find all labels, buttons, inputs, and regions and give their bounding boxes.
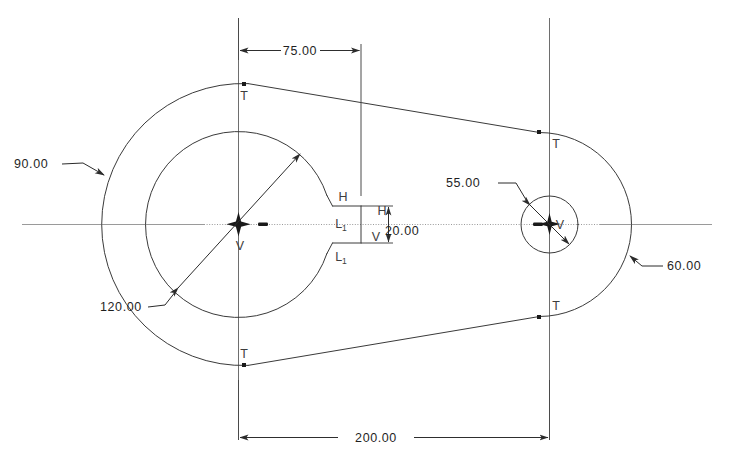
constraint-v-right-label[interactable]: V xyxy=(556,218,565,232)
dim-20-text: 20.00 xyxy=(385,224,419,238)
left-horizontal-glyph xyxy=(258,223,268,227)
drawing-canvas[interactable]: 75.00 200.00 20.00 90.00 120.00 55.00 60… xyxy=(0,0,735,473)
constraint-h-upper-label[interactable]: H xyxy=(338,190,347,204)
dim-60-leader xyxy=(630,256,663,266)
dim-90-leader xyxy=(62,163,104,175)
svg-text:L1: L1 xyxy=(335,250,347,266)
left-center-point[interactable] xyxy=(226,212,250,236)
constraint-v-inner-label[interactable]: V xyxy=(372,230,381,244)
dimension-90[interactable]: 90.00 xyxy=(14,157,104,175)
constraint-l1-lower-label: L xyxy=(335,250,342,264)
constraint-t-bottom-right-label: T xyxy=(552,299,560,313)
keyway-upper-flank[interactable] xyxy=(327,195,333,206)
constraint-v-left-label[interactable]: V xyxy=(236,239,245,253)
dimension-200[interactable]: 200.00 xyxy=(239,380,550,445)
constraint-t-bottom-left[interactable]: T xyxy=(240,347,248,367)
dim-120-leader-tail xyxy=(148,291,176,307)
dim-75-text: 75.00 xyxy=(283,44,317,58)
technical-drawing-svg[interactable]: 75.00 200.00 20.00 90.00 120.00 55.00 60… xyxy=(0,0,735,473)
constraint-l1-lower-sub: 1 xyxy=(342,256,347,266)
dim-55-text: 55.00 xyxy=(446,176,480,190)
dimension-120[interactable]: 120.00 xyxy=(100,154,300,314)
dimension-75[interactable]: 75.00 xyxy=(239,18,362,196)
outer-lower-tangent-line[interactable] xyxy=(248,317,540,366)
constraint-h-inner-label[interactable]: H xyxy=(377,204,386,218)
constraint-t-bottom-left-label: T xyxy=(240,347,248,361)
dim-55-leader-tail xyxy=(498,183,528,203)
tangent-point-bottom-right xyxy=(537,315,541,319)
dimension-55[interactable]: 55.00 xyxy=(446,176,569,244)
constraint-t-top-left-label: T xyxy=(240,89,248,103)
dimension-60[interactable]: 60.00 xyxy=(630,256,701,273)
constraint-l1-upper-label: L xyxy=(335,217,342,231)
constraint-l1-lower[interactable]: L1 xyxy=(335,250,347,266)
dim-90-text: 90.00 xyxy=(14,157,48,171)
dim-200-text: 200.00 xyxy=(355,431,397,445)
constraint-t-top-left[interactable]: T xyxy=(240,82,248,103)
keyway-lower-flank[interactable] xyxy=(327,243,333,254)
svg-text:L1: L1 xyxy=(335,217,347,233)
constraint-t-top-right-label: T xyxy=(552,137,560,151)
constraint-l1-upper-sub: 1 xyxy=(342,223,347,233)
tangent-point-top-right xyxy=(537,130,541,134)
constraint-l1-upper[interactable]: L1 xyxy=(335,217,347,233)
outer-upper-tangent-line[interactable] xyxy=(248,84,540,133)
tangent-point-bottom-left xyxy=(242,363,246,367)
dimension-20[interactable]: 20.00 xyxy=(361,206,419,243)
dim-60-text: 60.00 xyxy=(667,259,701,273)
dim-120-text: 120.00 xyxy=(100,300,142,314)
right-horizontal-glyph xyxy=(533,223,543,227)
tangent-point-top-left xyxy=(242,82,246,86)
